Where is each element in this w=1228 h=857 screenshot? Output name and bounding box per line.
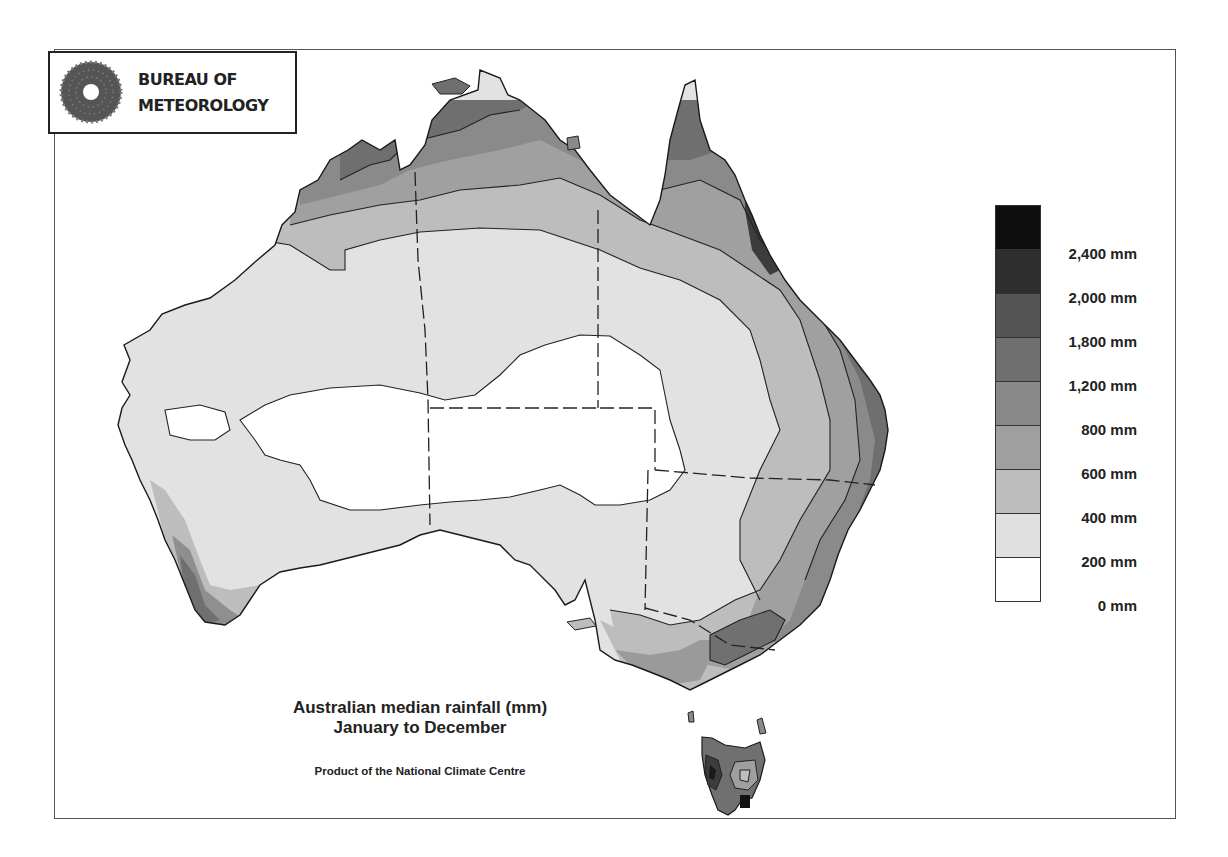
legend-label: 600 mm — [1081, 465, 1137, 482]
legend-color-bar — [995, 205, 1041, 602]
legend-label: 1,200 mm — [1069, 377, 1137, 394]
map-title: Australian median rainfall (mm) January … — [240, 698, 600, 738]
bureau-logo: BUREAU OF METEOROLOGY — [48, 51, 297, 134]
legend-swatch — [995, 250, 1041, 294]
legend-label: 400 mm — [1081, 509, 1137, 526]
credit-text: Product of the National Climate Centre — [240, 765, 600, 777]
legend-label: 2,000 mm — [1069, 289, 1137, 306]
mainland-australia — [118, 70, 900, 700]
legend-label: 2,400 mm — [1069, 245, 1137, 262]
bureau-sunburst-icon — [58, 59, 124, 125]
logo-line-1: BUREAU OF — [138, 67, 268, 93]
legend-label: 800 mm — [1081, 421, 1137, 438]
legend-swatch — [995, 470, 1041, 514]
legend-swatch — [995, 382, 1041, 426]
groote-island — [567, 136, 580, 150]
title-line-1: Australian median rainfall (mm) — [240, 698, 600, 718]
legend-swatch — [995, 426, 1041, 470]
kangaroo-island — [567, 618, 596, 630]
melville-island — [432, 78, 470, 94]
legend-swatch — [995, 205, 1041, 250]
logo-line-2: METEOROLOGY — [138, 93, 268, 119]
legend-label: 200 mm — [1081, 553, 1137, 570]
legend-label: 0 mm — [1098, 597, 1137, 614]
legend-label: 1,800 mm — [1069, 333, 1137, 350]
tasmania — [702, 737, 765, 815]
legend-swatch — [995, 558, 1041, 602]
legend-swatch — [995, 338, 1041, 382]
bass-strait-islands — [688, 711, 766, 734]
legend-swatch — [995, 294, 1041, 338]
title-line-2: January to December — [240, 718, 600, 738]
legend-labels: 2,400 mm 2,000 mm 1,800 mm 1,200 mm 800 … — [1040, 205, 1137, 625]
legend-swatch — [995, 514, 1041, 558]
